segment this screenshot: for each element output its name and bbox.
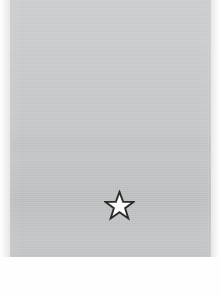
star-icon <box>104 190 135 221</box>
page-right-edge <box>211 0 220 257</box>
page-bottom-edge <box>0 257 220 296</box>
page-left-edge <box>0 0 10 257</box>
scan-canvas <box>0 0 220 296</box>
star-shape <box>105 191 134 218</box>
